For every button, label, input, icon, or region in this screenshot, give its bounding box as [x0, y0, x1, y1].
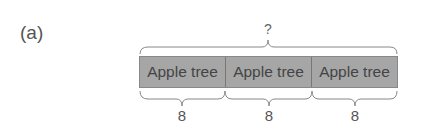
segment-1: Apple tree	[140, 57, 226, 87]
segment-2: Apple tree	[226, 57, 312, 87]
bottom-brace-2	[225, 91, 312, 106]
bottom-brace-3	[312, 91, 397, 106]
segment-1-value: 8	[172, 107, 192, 124]
tape-bar: Apple tree Apple tree Apple tree	[139, 56, 398, 88]
bottom-brace-1	[140, 91, 225, 106]
segment-3: Apple tree	[312, 57, 397, 87]
top-brace	[140, 40, 397, 54]
segment-2-value: 8	[259, 107, 279, 124]
segment-3-value: 8	[345, 107, 365, 124]
